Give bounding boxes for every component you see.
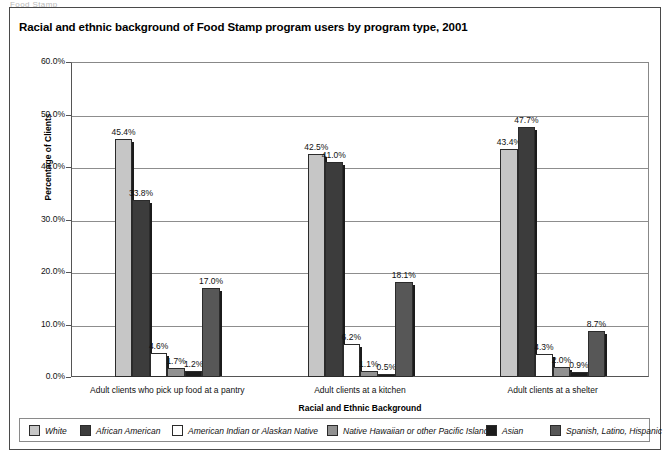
- legend-label: Asian: [502, 426, 523, 436]
- legend-swatch-icon: [486, 425, 497, 436]
- legend-label: American Indian or Alaskan Native: [188, 426, 318, 436]
- y-axis-tick-label: 20.0%: [21, 266, 65, 276]
- x-axis-group-label: Adult clients at a kitchen: [264, 385, 457, 395]
- bar-value-label: 47.7%: [510, 115, 542, 125]
- bar-value-label: 4.3%: [528, 342, 560, 352]
- y-axis-tick-label: 10.0%: [21, 319, 65, 329]
- bar: [378, 374, 396, 377]
- plot-area: [71, 62, 649, 377]
- legend-label: African American: [96, 426, 160, 436]
- legend-item[interactable]: Native Hawaiian or other Pacific Islande…: [327, 423, 496, 438]
- y-axis-tick-label: 60.0%: [21, 56, 65, 66]
- gridline: [72, 221, 648, 222]
- legend-swatch-icon: [172, 425, 183, 436]
- bar-value-label: 4.6%: [143, 341, 175, 351]
- x-axis-group-label: Adult clients who pick up food at a pant…: [71, 385, 264, 395]
- cutoff-header-text: Food Stamp: [10, 0, 210, 7]
- chart-title: Racial and ethnic background of Food Sta…: [19, 21, 467, 33]
- y-axis-tick-mark: [66, 272, 71, 273]
- bar: [518, 127, 536, 377]
- y-axis-tick-label: 0.0%: [21, 371, 65, 381]
- bar: [308, 154, 326, 377]
- x-axis-title: Racial and Ethnic Background: [71, 403, 649, 413]
- legend-swatch-icon: [80, 425, 91, 436]
- legend-swatch-icon: [550, 425, 561, 436]
- bar: [500, 149, 518, 377]
- y-axis-title: Percentage of Clients: [43, 82, 53, 232]
- y-axis-tick-mark: [66, 62, 71, 63]
- gridline: [72, 116, 648, 117]
- y-axis-tick-label: 30.0%: [21, 214, 65, 224]
- legend-label: White: [45, 426, 67, 436]
- bar-value-label: 17.0%: [195, 276, 227, 286]
- legend-item[interactable]: Asian: [486, 423, 523, 438]
- bar-value-label: 45.4%: [108, 127, 140, 137]
- bar-value-label: 41.0%: [318, 150, 350, 160]
- chart-legend: WhiteAfrican AmericanAmerican Indian or …: [19, 418, 650, 442]
- x-axis-group-label: Adult clients at a shelter: [456, 385, 649, 395]
- bar-value-label: 8.7%: [580, 319, 612, 329]
- y-axis-tick-mark: [66, 220, 71, 221]
- gridline: [72, 168, 648, 169]
- bar-value-label: 33.8%: [125, 188, 157, 198]
- legend-item[interactable]: American Indian or Alaskan Native: [172, 423, 318, 438]
- legend-label: Native Hawaiian or other Pacific Islande…: [343, 426, 496, 436]
- gridline: [72, 326, 648, 327]
- legend-item[interactable]: African American: [80, 423, 160, 438]
- y-axis-tick-label: 50.0%: [21, 109, 65, 119]
- chart-figure: Food Stamp Racial and ethnic background …: [0, 0, 670, 456]
- gridline: [72, 273, 648, 274]
- legend-swatch-icon: [327, 425, 338, 436]
- legend-label: Spanish, Latino, Hispanic: [566, 426, 662, 436]
- y-axis-tick-mark: [66, 377, 71, 378]
- bar-value-label: 6.2%: [335, 332, 367, 342]
- bar: [588, 331, 606, 377]
- bar: [395, 282, 413, 377]
- bar: [115, 139, 133, 377]
- bar: [325, 162, 343, 377]
- legend-swatch-icon: [29, 425, 40, 436]
- bar: [202, 288, 220, 377]
- legend-item[interactable]: Spanish, Latino, Hispanic: [550, 423, 662, 438]
- bar: [570, 372, 588, 377]
- legend-item[interactable]: White: [29, 423, 67, 438]
- y-axis-tick-mark: [66, 115, 71, 116]
- y-axis-tick-mark: [66, 325, 71, 326]
- y-axis-tick-label: 40.0%: [21, 161, 65, 171]
- bar: [185, 371, 203, 377]
- y-axis-tick-mark: [66, 167, 71, 168]
- bar: [167, 368, 185, 377]
- bar-value-label: 18.1%: [388, 270, 420, 280]
